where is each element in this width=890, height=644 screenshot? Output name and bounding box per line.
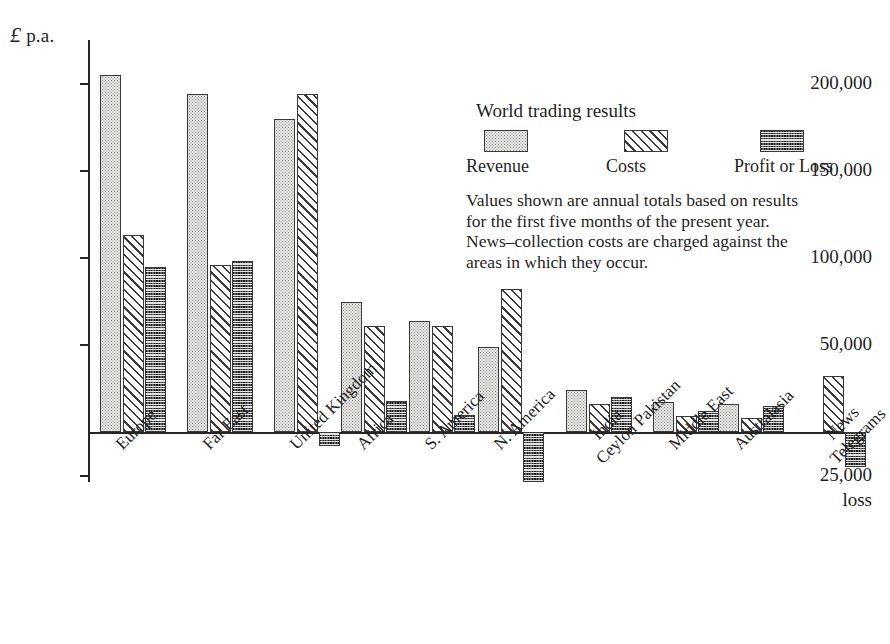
legend-swatch-light-stipple	[484, 130, 528, 152]
y-axis-unit-text: p.a.	[26, 25, 54, 46]
legend-label: Profit or Loss	[734, 156, 833, 176]
legend-note-line: areas in which they occur.	[466, 252, 858, 273]
bar-revenue	[187, 94, 208, 432]
bar-costs	[297, 94, 318, 432]
legend-swatch-diagonal-hatch	[624, 130, 668, 152]
legend-items: RevenueCostsProfit or Loss	[466, 130, 858, 188]
legend-note: Values shown are annual totals based on …	[466, 190, 858, 272]
y-axis-unit-caption: £ p.a.	[10, 22, 54, 48]
legend-note-line: for the first five months of the present…	[466, 211, 858, 232]
bar-costs	[123, 235, 144, 432]
legend-title: World trading results	[476, 100, 858, 122]
bar-costs	[210, 265, 231, 432]
bar-revenue	[566, 390, 587, 432]
bar-profit-or-loss	[319, 432, 340, 446]
legend-item-revenue: Revenue	[466, 130, 529, 176]
legend-note-line: News–collection costs are charged agains…	[466, 231, 858, 252]
legend-note-line: Values shown are annual totals based on …	[466, 190, 858, 211]
bar-profit-or-loss	[523, 432, 544, 482]
legend: World trading results RevenueCostsProfit…	[466, 100, 858, 272]
bar-revenue	[478, 347, 499, 432]
legend-label: Costs	[606, 156, 668, 176]
legend-swatch-dark-checker	[760, 130, 804, 152]
bar-revenue	[274, 119, 295, 432]
legend-label: Revenue	[466, 156, 529, 176]
legend-item-costs: Costs	[606, 130, 668, 176]
legend-item-profit-or-loss: Profit or Loss	[734, 130, 833, 176]
bar-revenue	[409, 321, 430, 432]
pound-symbol: £	[10, 22, 21, 47]
bar-revenue	[100, 75, 121, 432]
